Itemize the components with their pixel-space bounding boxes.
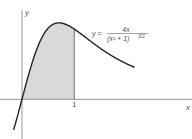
chart: x y 1 y = 4x (x² + 1) 3/2 (0, 0, 192, 139)
x-axis-label: x (185, 103, 191, 112)
shaded-area (22, 23, 74, 99)
equation-exponent: 3/2 (138, 33, 145, 39)
equation-numerator: 4x (122, 26, 130, 33)
equation-label: y = 4x (x² + 1) 3/2 (91, 26, 148, 43)
y-axis-label: y (24, 8, 30, 17)
equation-denominator: (x² + 1) (107, 35, 129, 43)
equation-lhs: y = (91, 30, 102, 38)
x-tick-label: 1 (72, 101, 76, 108)
